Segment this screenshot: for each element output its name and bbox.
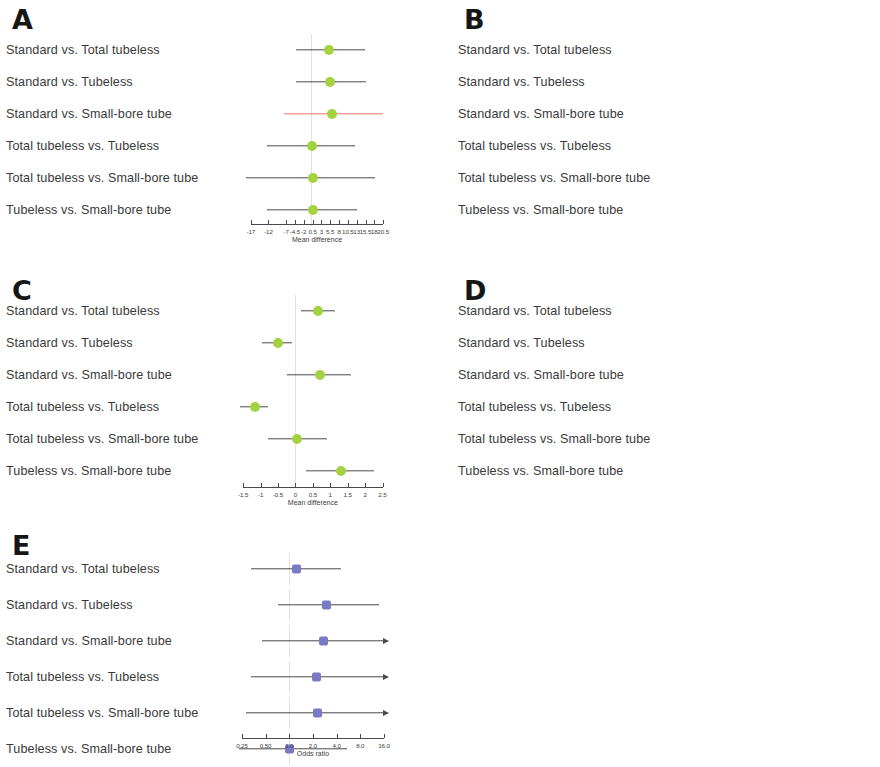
axis-tick-label: 0.25 bbox=[236, 742, 248, 749]
point-estimate-marker bbox=[322, 601, 331, 610]
plot-area bbox=[236, 589, 388, 621]
axis-tick bbox=[360, 734, 361, 738]
forest-row: Total tubeless vs. Small-bore tube bbox=[0, 697, 880, 729]
ci-arrow-right-icon bbox=[383, 674, 389, 680]
forest-plot-figure: AStandard vs. Total tubelessStandard vs.… bbox=[0, 0, 880, 767]
plot-area bbox=[236, 553, 388, 585]
forest-row: Tubeless vs. Small-bore tube bbox=[0, 733, 880, 765]
comparison-label: Total tubeless vs. Small-bore tube bbox=[6, 706, 198, 720]
axis-tick-label: 16.0 bbox=[378, 742, 390, 749]
forest-row: Standard vs. Small-bore tube bbox=[0, 625, 880, 657]
forest-row: Standard vs. Tubeless bbox=[0, 589, 880, 621]
point-estimate-marker bbox=[319, 637, 328, 646]
comparison-label: Standard vs. Total tubeless bbox=[6, 562, 160, 576]
axis-tick-label: 1.0 bbox=[285, 742, 293, 749]
panel-e: EStandard vs. Total tubelessStandard vs.… bbox=[0, 0, 880, 767]
ci-arrow-right-icon bbox=[383, 638, 389, 644]
axis-tick bbox=[384, 734, 385, 738]
axis-tick bbox=[289, 734, 290, 738]
plot-area bbox=[236, 697, 388, 729]
axis-tick bbox=[337, 734, 338, 738]
comparison-label: Total tubeless vs. Tubeless bbox=[6, 670, 159, 684]
point-estimate-marker bbox=[292, 565, 301, 574]
axis-title: Odds ratio bbox=[297, 750, 329, 757]
comparison-label: Standard vs. Small-bore tube bbox=[6, 634, 172, 648]
axis-tick-label: 2.0 bbox=[309, 742, 317, 749]
point-estimate-marker bbox=[313, 709, 322, 718]
forest-row: Standard vs. Total tubeless bbox=[0, 553, 880, 585]
axis-line bbox=[242, 738, 384, 739]
ci-arrow-right-icon bbox=[383, 710, 389, 716]
forest-row: Total tubeless vs. Tubeless bbox=[0, 661, 880, 693]
point-estimate-marker bbox=[312, 673, 321, 682]
axis-tick-label: 8.0 bbox=[356, 742, 364, 749]
comparison-label: Standard vs. Tubeless bbox=[6, 598, 133, 612]
axis-tick bbox=[266, 734, 267, 738]
plot-area bbox=[236, 661, 388, 693]
comparison-label: Tubeless vs. Small-bore tube bbox=[6, 742, 171, 756]
axis-tick bbox=[313, 734, 314, 738]
axis-tick-label: 0.50 bbox=[260, 742, 272, 749]
axis-tick-label: 4.0 bbox=[332, 742, 340, 749]
axis-tick bbox=[242, 734, 243, 738]
plot-area bbox=[236, 625, 388, 657]
